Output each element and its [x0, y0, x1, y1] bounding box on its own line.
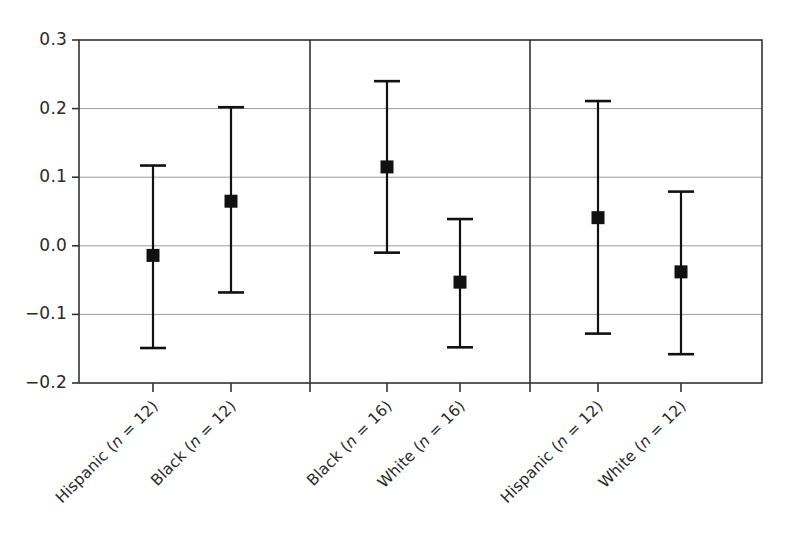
axes-frame — [79, 40, 762, 383]
y-tick-label: −0.1 — [25, 303, 67, 323]
error-bar-point — [585, 101, 611, 334]
plot-frame — [79, 40, 762, 383]
error-bar-point — [668, 192, 694, 355]
y-tick-label: 0.0 — [39, 235, 67, 255]
point-marker — [381, 160, 394, 173]
error-bar-series — [140, 81, 694, 354]
point-marker — [454, 276, 467, 289]
error-bar-point — [218, 107, 244, 292]
error-bar-point — [447, 219, 473, 347]
point-marker — [675, 265, 688, 278]
y-tick-label: 0.3 — [39, 29, 67, 49]
panel-divider-group — [310, 40, 530, 383]
figure-container: 0.30.20.10.0−0.1−0.2 Hispanic (n = 12)Bl… — [0, 0, 789, 554]
y-tick-group — [72, 40, 79, 383]
point-marker — [225, 195, 238, 208]
x-tick-group — [153, 383, 681, 392]
point-marker — [592, 211, 605, 224]
error-bar-point — [374, 81, 400, 253]
y-tick-label: 0.1 — [39, 166, 67, 186]
point-marker — [147, 249, 160, 262]
gridline-group — [79, 109, 762, 315]
y-tick-label: 0.2 — [39, 98, 67, 118]
y-tick-label: −0.2 — [25, 372, 67, 392]
error-bar-point — [140, 166, 166, 348]
